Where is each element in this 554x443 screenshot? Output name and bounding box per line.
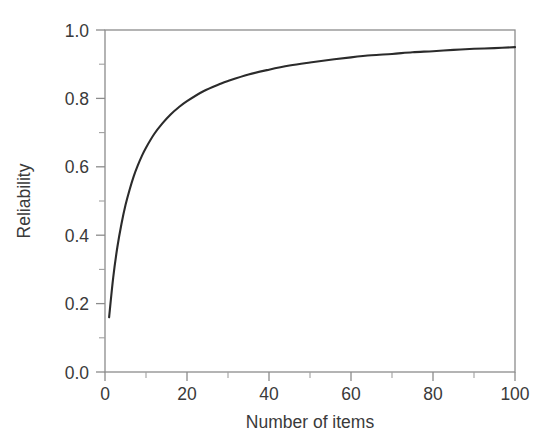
y-tick-label: 0.4 [65, 226, 90, 246]
chart-svg: 0.0 0.2 0.4 0.6 0.8 1.0 0 20 [0, 0, 554, 443]
chart-figure: 0.0 0.2 0.4 0.6 0.8 1.0 0 20 [0, 0, 554, 443]
x-tick-label: 80 [423, 384, 443, 404]
x-tick-label: 60 [341, 384, 361, 404]
y-tick-label: 0.8 [65, 89, 89, 109]
y-tick-label: 0.0 [65, 363, 90, 383]
y-tick-label: 1.0 [65, 21, 90, 41]
y-tick-label: 0.2 [65, 294, 89, 314]
x-tick-label: 40 [259, 384, 279, 404]
y-tick-label: 0.6 [65, 157, 89, 177]
x-tick-label: 100 [500, 384, 529, 404]
x-axis-title: Number of items [246, 412, 375, 432]
y-axis-title: Reliability [14, 163, 34, 238]
x-tick-label: 0 [100, 384, 110, 404]
x-tick-label: 20 [177, 384, 197, 404]
